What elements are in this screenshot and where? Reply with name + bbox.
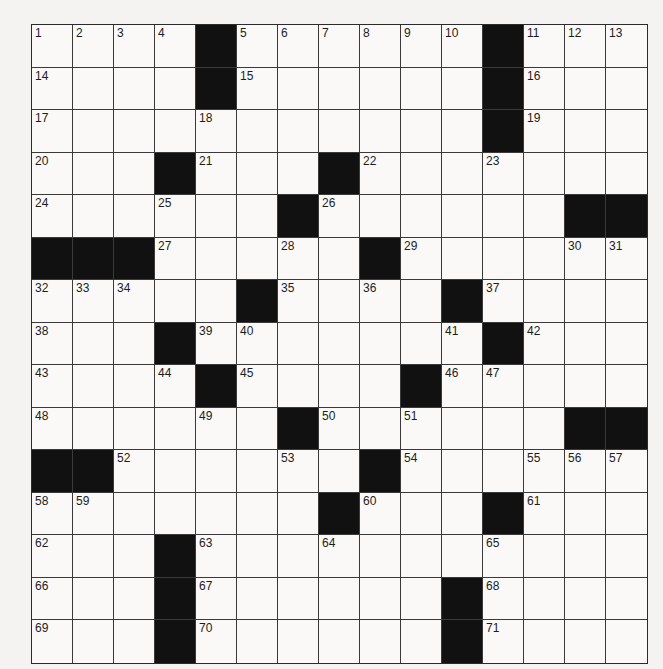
crossword-cell[interactable]: 67 — [196, 578, 237, 621]
crossword-cell[interactable] — [524, 535, 565, 578]
crossword-cell[interactable]: 51 — [401, 408, 442, 451]
crossword-cell[interactable] — [196, 195, 237, 238]
crossword-cell[interactable] — [524, 280, 565, 323]
crossword-cell[interactable]: 8 — [360, 25, 401, 68]
crossword-cell[interactable]: 12 — [565, 25, 606, 68]
crossword-cell[interactable] — [606, 365, 647, 408]
crossword-cell[interactable] — [565, 280, 606, 323]
crossword-cell[interactable] — [606, 493, 647, 536]
crossword-cell[interactable]: 3 — [114, 25, 155, 68]
crossword-cell[interactable] — [401, 153, 442, 196]
crossword-cell[interactable] — [524, 578, 565, 621]
crossword-cell[interactable] — [360, 110, 401, 153]
crossword-cell[interactable]: 40 — [237, 323, 278, 366]
crossword-cell[interactable] — [155, 68, 196, 111]
crossword-cell[interactable] — [114, 323, 155, 366]
crossword-cell[interactable] — [237, 535, 278, 578]
crossword-cell[interactable] — [196, 238, 237, 281]
crossword-cell[interactable] — [114, 535, 155, 578]
crossword-cell[interactable] — [155, 450, 196, 493]
crossword-cell[interactable] — [524, 238, 565, 281]
crossword-cell[interactable]: 46 — [442, 365, 483, 408]
crossword-cell[interactable] — [278, 535, 319, 578]
crossword-cell[interactable] — [565, 535, 606, 578]
crossword-cell[interactable] — [401, 280, 442, 323]
crossword-cell[interactable]: 32 — [32, 280, 73, 323]
crossword-cell[interactable] — [73, 110, 114, 153]
crossword-cell[interactable] — [401, 68, 442, 111]
crossword-cell[interactable] — [442, 68, 483, 111]
crossword-cell[interactable] — [237, 578, 278, 621]
crossword-cell[interactable] — [319, 238, 360, 281]
crossword-cell[interactable] — [442, 535, 483, 578]
crossword-cell[interactable] — [237, 153, 278, 196]
crossword-cell[interactable]: 34 — [114, 280, 155, 323]
crossword-cell[interactable]: 29 — [401, 238, 442, 281]
crossword-cell[interactable]: 9 — [401, 25, 442, 68]
crossword-cell[interactable] — [442, 110, 483, 153]
crossword-cell[interactable] — [114, 195, 155, 238]
crossword-cell[interactable]: 23 — [483, 153, 524, 196]
crossword-cell[interactable] — [360, 408, 401, 451]
crossword-cell[interactable] — [483, 238, 524, 281]
crossword-cell[interactable] — [155, 408, 196, 451]
crossword-cell[interactable] — [278, 68, 319, 111]
crossword-cell[interactable]: 41 — [442, 323, 483, 366]
crossword-cell[interactable]: 43 — [32, 365, 73, 408]
crossword-cell[interactable] — [606, 68, 647, 111]
crossword-cell[interactable]: 54 — [401, 450, 442, 493]
crossword-cell[interactable] — [73, 153, 114, 196]
crossword-cell[interactable] — [278, 493, 319, 536]
crossword-cell[interactable] — [114, 578, 155, 621]
crossword-cell[interactable] — [401, 195, 442, 238]
crossword-cell[interactable] — [73, 195, 114, 238]
crossword-cell[interactable] — [73, 535, 114, 578]
crossword-cell[interactable] — [360, 535, 401, 578]
crossword-cell[interactable]: 68 — [483, 578, 524, 621]
crossword-cell[interactable] — [483, 195, 524, 238]
crossword-cell[interactable]: 44 — [155, 365, 196, 408]
crossword-cell[interactable]: 27 — [155, 238, 196, 281]
crossword-cell[interactable]: 64 — [319, 535, 360, 578]
crossword-cell[interactable] — [278, 323, 319, 366]
crossword-cell[interactable] — [196, 493, 237, 536]
crossword-cell[interactable] — [565, 153, 606, 196]
crossword-cell[interactable] — [278, 110, 319, 153]
crossword-cell[interactable] — [360, 620, 401, 663]
crossword-cell[interactable]: 58 — [32, 493, 73, 536]
crossword-cell[interactable] — [524, 620, 565, 663]
crossword-cell[interactable] — [606, 535, 647, 578]
crossword-cell[interactable] — [565, 365, 606, 408]
crossword-cell[interactable] — [319, 620, 360, 663]
crossword-cell[interactable]: 49 — [196, 408, 237, 451]
crossword-cell[interactable]: 4 — [155, 25, 196, 68]
crossword-cell[interactable] — [278, 578, 319, 621]
crossword-cell[interactable] — [442, 238, 483, 281]
crossword-cell[interactable]: 36 — [360, 280, 401, 323]
crossword-cell[interactable] — [155, 493, 196, 536]
crossword-cell[interactable] — [73, 365, 114, 408]
crossword-cell[interactable]: 30 — [565, 238, 606, 281]
crossword-cell[interactable] — [237, 408, 278, 451]
crossword-cell[interactable]: 52 — [114, 450, 155, 493]
crossword-cell[interactable] — [278, 365, 319, 408]
crossword-cell[interactable]: 66 — [32, 578, 73, 621]
crossword-cell[interactable] — [565, 493, 606, 536]
crossword-cell[interactable] — [606, 323, 647, 366]
crossword-cell[interactable] — [155, 110, 196, 153]
crossword-cell[interactable] — [114, 68, 155, 111]
crossword-cell[interactable] — [196, 280, 237, 323]
crossword-cell[interactable]: 7 — [319, 25, 360, 68]
crossword-cell[interactable]: 13 — [606, 25, 647, 68]
crossword-cell[interactable]: 19 — [524, 110, 565, 153]
crossword-cell[interactable]: 2 — [73, 25, 114, 68]
crossword-cell[interactable]: 56 — [565, 450, 606, 493]
crossword-cell[interactable] — [442, 493, 483, 536]
crossword-cell[interactable]: 1 — [32, 25, 73, 68]
crossword-cell[interactable]: 16 — [524, 68, 565, 111]
crossword-cell[interactable] — [319, 450, 360, 493]
crossword-cell[interactable] — [565, 323, 606, 366]
crossword-cell[interactable]: 48 — [32, 408, 73, 451]
crossword-cell[interactable] — [606, 620, 647, 663]
crossword-cell[interactable]: 25 — [155, 195, 196, 238]
